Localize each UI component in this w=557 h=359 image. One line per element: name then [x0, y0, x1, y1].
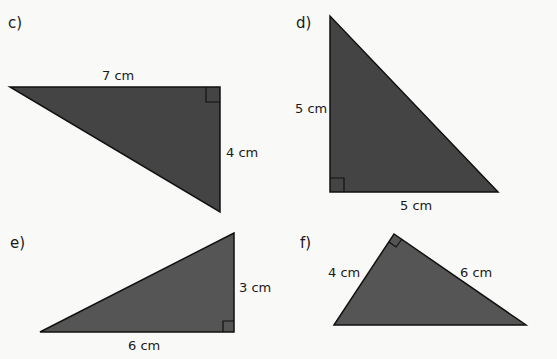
triangle-c-height-label: 4 cm [226, 145, 258, 160]
triangle-e-height-label: 3 cm [239, 280, 271, 295]
triangle-f-right-side-label: 6 cm [460, 265, 492, 280]
triangle-c [10, 87, 220, 212]
part-label-f: f) [300, 234, 311, 252]
triangle-d-height-label: 5 cm [295, 101, 327, 116]
triangle-e-base-label: 6 cm [128, 338, 160, 353]
part-label-d: d) [296, 14, 311, 32]
triangle-d-base-label: 5 cm [400, 198, 432, 213]
triangle-f-left-side-label: 4 cm [328, 265, 360, 280]
triangles-diagram: c) 7 cm 4 cm d) 5 cm 5 cm e) 3 cm 6 cm f… [0, 0, 557, 359]
triangle-d [330, 16, 498, 192]
triangle-f [334, 234, 526, 325]
part-label-e: e) [10, 234, 25, 252]
part-label-c: c) [8, 14, 22, 32]
triangle-c-base-label: 7 cm [102, 68, 134, 83]
triangle-e [40, 233, 234, 332]
